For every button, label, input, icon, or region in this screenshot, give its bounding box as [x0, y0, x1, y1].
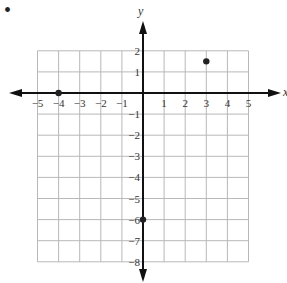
data-point: [140, 216, 146, 222]
y-axis-up-arrow-icon: [139, 21, 147, 34]
x-axis-right-arrow-icon: [268, 89, 281, 97]
y-tick-label: −3: [128, 150, 140, 162]
x-tick-label: −3: [74, 97, 86, 109]
y-tick-label: −6: [128, 214, 140, 226]
x-axis-label: x: [282, 85, 287, 99]
data-point: [203, 58, 209, 64]
coordinate-plane: xy−5−4−3−2−11234521−1−2−3−4−5−6−7−8: [0, 0, 287, 283]
data-point: [55, 90, 61, 96]
problem-marker-bullet: •: [4, 0, 11, 22]
y-tick-label: 2: [135, 45, 141, 57]
y-tick-label: −1: [128, 108, 140, 120]
x-tick-label: 3: [204, 97, 210, 109]
y-tick-label: −5: [128, 193, 140, 205]
x-tick-label: 5: [246, 97, 252, 109]
y-tick-label: −7: [128, 235, 140, 247]
x-tick-label: −4: [53, 97, 65, 109]
y-tick-label: −4: [128, 171, 140, 183]
x-tick-label: −2: [95, 97, 107, 109]
y-axis-label: y: [137, 4, 144, 18]
x-axis-left-arrow-icon: [9, 89, 22, 97]
x-tick-label: 4: [225, 97, 231, 109]
x-tick-label: 1: [161, 97, 167, 109]
y-tick-label: −8: [128, 256, 140, 268]
y-tick-label: 1: [135, 66, 141, 78]
x-tick-label: −5: [32, 97, 44, 109]
y-axis-down-arrow-icon: [139, 269, 147, 282]
x-tick-label: 2: [182, 97, 188, 109]
x-tick-label: −1: [116, 97, 128, 109]
y-tick-label: −2: [128, 129, 140, 141]
